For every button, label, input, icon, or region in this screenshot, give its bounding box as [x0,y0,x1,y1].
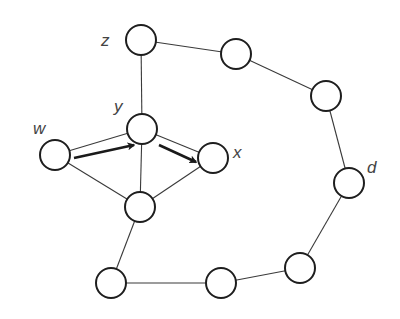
node-n7 [96,268,126,298]
node-n5 [285,253,315,283]
node-w [40,140,70,170]
node-n3 [311,81,341,111]
arrow-icon-y-to-x [159,145,196,162]
node-label-w: w [33,119,47,138]
node-label-z: z [100,31,110,50]
node-y [127,114,157,144]
graph-diagram: zdywx [0,0,400,319]
directed-arrows [74,145,196,162]
nodes [40,25,364,298]
node-label-y: y [113,97,124,116]
node-n8 [125,192,155,222]
node-n6 [206,268,236,298]
node-x [198,143,228,173]
node-n2 [221,39,251,69]
node-label-d: d [367,158,377,177]
node-label-x: x [232,143,242,162]
node-z [126,25,156,55]
node-d [334,168,364,198]
